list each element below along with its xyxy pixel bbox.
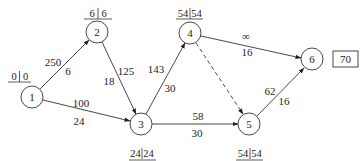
network-diagram: 250 6 100 24 125 18 143 30 58 30 ∞ 16 62… [0, 0, 363, 161]
node-2-times: 6 6 [84, 8, 112, 19]
node-1-label: 1 [29, 91, 35, 103]
node-4-times: 54 54 [176, 8, 203, 19]
node-2-label: 2 [94, 26, 100, 38]
edge-5-6-duration: 16 [279, 95, 291, 107]
node-2-early: 6 [89, 8, 94, 19]
node-6-label: 6 [309, 53, 315, 65]
edge-3-5-cost: 58 [193, 110, 205, 122]
node-2-late: 6 [101, 8, 106, 19]
edge-4-5-dummy [196, 43, 243, 114]
edge-3-4 [146, 43, 185, 114]
node-4-late: 54 [191, 8, 202, 19]
edge-1-3-duration: 24 [74, 115, 86, 127]
result-value: 70 [340, 53, 352, 65]
node-5-times: 54 54 [236, 148, 263, 160]
node-4-label: 4 [187, 27, 193, 39]
edge-4-6-cost: ∞ [242, 30, 250, 42]
edges [40, 36, 304, 124]
node-5-late: 54 [251, 148, 262, 159]
node-3-label: 3 [138, 118, 144, 130]
node-4-early: 54 [178, 8, 189, 19]
node-1-early: 0 [11, 71, 16, 82]
result-box: 70 [333, 51, 358, 67]
node-3-times: 24 24 [129, 148, 156, 160]
edge-3-4-cost: 143 [148, 63, 165, 75]
edge-1-2-duration: 6 [65, 65, 71, 77]
node-5-label: 5 [246, 118, 252, 130]
edge-3-5-duration: 30 [192, 127, 204, 139]
node-3-late: 24 [143, 148, 154, 159]
edge-3-4-duration: 30 [165, 82, 177, 94]
edge-2-3-cost: 125 [118, 65, 135, 77]
edge-2-3-duration: 18 [104, 75, 116, 87]
edge-1-3-cost: 100 [73, 97, 90, 109]
edge-1-2-cost: 250 [45, 56, 62, 68]
node-5-early: 54 [238, 148, 249, 159]
edge-4-6-duration: 16 [242, 46, 254, 58]
node-1-late: 0 [23, 71, 28, 82]
node-3-early: 24 [130, 148, 141, 159]
edge-5-6-cost: 62 [265, 85, 276, 97]
node-1-times: 0 0 [8, 71, 31, 82]
